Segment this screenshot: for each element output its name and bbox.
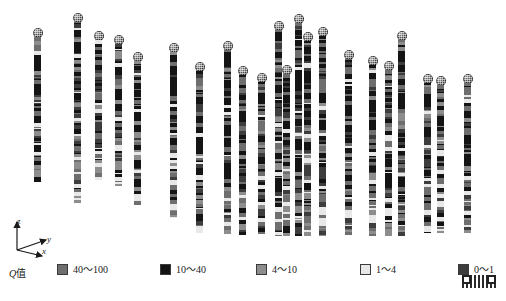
borehole-log-segment [319, 235, 326, 236]
borehole-log-segment [170, 217, 177, 218]
borehole-log-column [115, 44, 122, 186]
borehole-log-segment [437, 232, 444, 233]
borehole-log-column [239, 75, 246, 235]
borehole-log-column [345, 59, 352, 235]
legend-item: 0～1 [458, 264, 494, 275]
borehole-log-segment [275, 235, 282, 236]
borehole-log-segment [115, 184, 122, 186]
borehole-log-column [295, 23, 302, 236]
borehole-log-segment [74, 200, 81, 203]
borehole-log-segment [239, 232, 246, 235]
borehole-log-segment [34, 181, 41, 182]
qr-code-pattern [462, 275, 496, 288]
borehole-log-segment [295, 235, 302, 236]
legend-item: 40～100 [57, 264, 108, 275]
legend-swatch [360, 264, 371, 275]
borehole-log-segment [304, 235, 311, 236]
borehole-log-column [304, 41, 311, 236]
legend-item: 1～4 [360, 264, 396, 275]
axis-triad: z y x [8, 218, 64, 262]
legend: Q值 40～10010～404～101～40～1 [0, 262, 506, 286]
legend-title-text: 值 [16, 268, 26, 279]
borehole-log-column [464, 83, 471, 233]
borehole-log-segment [196, 230, 203, 233]
legend-label: 10～40 [176, 265, 206, 275]
legend-swatch [57, 264, 68, 275]
borehole-log-segment [398, 235, 405, 236]
legend-item: 4～10 [256, 264, 297, 275]
borehole-log-column [74, 22, 81, 203]
axis-label-z: z [17, 216, 21, 226]
borehole-log-segment [424, 232, 431, 233]
borehole-log-segment [369, 234, 376, 236]
plot-area [0, 0, 506, 240]
legend-item: 10～40 [160, 264, 206, 275]
borehole-log-segment [385, 235, 392, 236]
borehole-log-column [95, 40, 102, 180]
legend-label: 40～100 [73, 265, 108, 275]
legend-label: 4～10 [272, 265, 297, 275]
legend-label: 0～1 [474, 265, 494, 275]
borehole-log-column [424, 83, 431, 233]
borehole-log-column [437, 85, 444, 233]
borehole-log-column [319, 36, 326, 236]
legend-label: 1～4 [376, 265, 396, 275]
legend-swatch [458, 264, 469, 275]
borehole-log-column [170, 52, 177, 218]
axis-label-x: x [42, 246, 46, 256]
legend-title: Q值 [9, 265, 26, 280]
borehole-log-segment [258, 232, 265, 234]
borehole-log-column [385, 70, 392, 236]
borehole-log-column [369, 65, 376, 236]
qr-finder-top-left [462, 275, 471, 284]
borehole-log-column [34, 37, 41, 182]
borehole-log-segment [95, 177, 102, 180]
legend-swatch [256, 264, 267, 275]
borehole-log-column [196, 71, 203, 233]
borehole-log-column [283, 74, 290, 236]
legend-swatch [160, 264, 171, 275]
borehole-log-segment [134, 203, 141, 205]
borehole-log-column [258, 82, 265, 234]
borehole-log-column [398, 40, 405, 236]
borehole-log-column [275, 30, 282, 236]
axis-label-y: y [47, 234, 51, 244]
borehole-log-column [224, 50, 231, 234]
qr-code-icon [462, 275, 496, 288]
borehole-log-segment [464, 230, 471, 233]
borehole-log-segment [224, 230, 231, 234]
borehole-q-value-figure: z y x Q值 40～10010～404～101～40～1 [0, 0, 506, 301]
borehole-log-column [134, 61, 141, 205]
borehole-log-segment [345, 232, 352, 235]
qr-finder-top-right [487, 275, 496, 284]
borehole-log-segment [283, 233, 290, 236]
